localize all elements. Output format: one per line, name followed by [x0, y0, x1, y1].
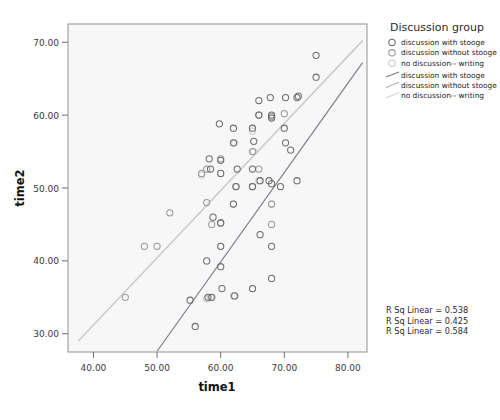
legend-line-label: discussion with stooge	[401, 71, 485, 80]
legend: Discussion group discussion with stooged…	[386, 21, 497, 100]
y-tick-label: 30.00	[33, 329, 59, 339]
legend-title: Discussion group	[390, 21, 484, 34]
y-tick-label: 50.00	[33, 184, 59, 194]
y-tick-label: 60.00	[33, 111, 59, 121]
y-tick-label: 70.00	[33, 38, 59, 48]
legend-marker-label: no discussion-- writing	[401, 59, 484, 68]
x-axis-title: time1	[198, 380, 235, 394]
x-tick-label: 60.00	[208, 363, 234, 373]
plot-panel	[68, 24, 367, 352]
legend-line-label: discussion without stooge	[401, 81, 497, 90]
legend-line-entries: discussion with stoogediscussion without…	[386, 71, 497, 101]
x-tick-label: 50.00	[144, 363, 170, 373]
legend-line-label: no discussion-- writing	[401, 91, 484, 100]
y-axis-title: time2	[13, 169, 27, 206]
scatter-chart: 40.0050.0060.0070.0080.00 30.0040.0050.0…	[0, 0, 500, 420]
r-squared-annotation: R Sq Linear = 0.538	[386, 305, 468, 315]
legend-marker-entries: discussion with stoogediscussion without…	[389, 38, 497, 68]
legend-marker-label: discussion without stooge	[401, 48, 497, 57]
y-tick-label: 40.00	[33, 256, 59, 266]
r-squared-annotations: R Sq Linear = 0.538R Sq Linear = 0.425R …	[386, 305, 468, 336]
x-tick-label: 40.00	[81, 363, 107, 373]
chart-canvas: 40.0050.0060.0070.0080.00 30.0040.0050.0…	[0, 0, 500, 420]
legend-marker-label: discussion with stooge	[401, 38, 485, 47]
r-squared-annotation: R Sq Linear = 0.425	[386, 316, 468, 326]
r-squared-annotation: R Sq Linear = 0.584	[386, 326, 468, 336]
x-tick-label: 70.00	[271, 363, 297, 373]
x-tick-label: 80.00	[335, 363, 361, 373]
